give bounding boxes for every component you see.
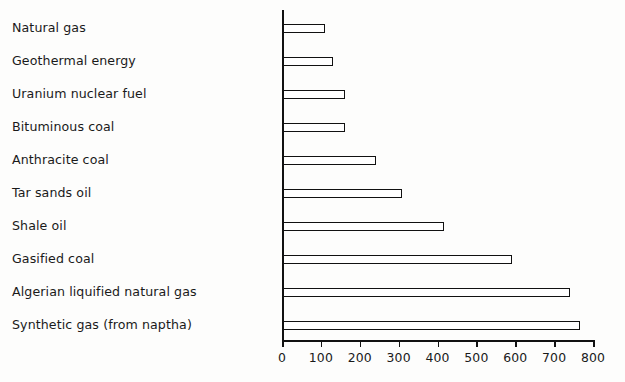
bar <box>283 90 345 99</box>
category-label: Uranium nuclear fuel <box>12 77 147 110</box>
category-label: Synthetic gas (from naptha) <box>12 308 192 341</box>
x-axis: 0 100 200 300 400 500 600 700 800 <box>282 340 622 382</box>
bar <box>283 24 325 33</box>
category-label: Shale oil <box>12 209 67 242</box>
bar <box>283 123 345 132</box>
category-label-list: Natural gas Geothermal energy Uranium nu… <box>0 10 272 340</box>
x-axis-tick-label: 100 <box>309 350 333 365</box>
x-axis-tick-label: 300 <box>387 350 411 365</box>
plot-area <box>282 10 622 340</box>
bar-chart: Natural gas Geothermal energy Uranium nu… <box>0 0 625 382</box>
x-axis-tick-label: 200 <box>348 350 372 365</box>
bar <box>283 156 376 165</box>
x-axis-tick-label: 600 <box>503 350 527 365</box>
category-label: Tar sands oil <box>12 176 91 209</box>
x-axis-tick <box>515 340 517 347</box>
bar <box>283 255 512 264</box>
x-axis-tick <box>282 340 284 347</box>
x-axis-tick <box>438 340 440 347</box>
category-label: Algerian liquified natural gas <box>12 275 197 308</box>
x-axis-tick <box>360 340 362 347</box>
x-axis-tick <box>476 340 478 347</box>
bar <box>283 321 580 330</box>
x-axis-tick <box>399 340 401 347</box>
x-axis-tick-label: 700 <box>542 350 566 365</box>
x-axis-tick <box>554 340 556 347</box>
x-axis-tick-label: 0 <box>278 350 286 365</box>
category-label: Gasified coal <box>12 242 94 275</box>
x-axis-tick-label: 500 <box>464 350 488 365</box>
category-label: Bituminous coal <box>12 110 114 143</box>
bar <box>283 189 402 198</box>
category-label: Natural gas <box>12 11 86 44</box>
x-axis-tick-label: 800 <box>581 350 605 365</box>
bar <box>283 222 444 231</box>
bar <box>283 57 333 66</box>
x-axis-tick <box>593 340 595 347</box>
x-axis-tick-label: 400 <box>425 350 449 365</box>
x-axis-tick <box>321 340 323 347</box>
bar <box>283 288 570 297</box>
category-label: Anthracite coal <box>12 143 109 176</box>
category-label: Geothermal energy <box>12 44 136 77</box>
